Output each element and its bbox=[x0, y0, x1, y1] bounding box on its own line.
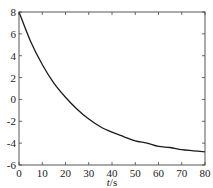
y-tick-label: 2 bbox=[11, 72, 17, 84]
x-tick-label: 70 bbox=[176, 167, 188, 179]
y-tick-label: 6 bbox=[11, 28, 17, 40]
y-tick-label: -2 bbox=[7, 115, 16, 127]
y-tick-label: 8 bbox=[11, 6, 17, 18]
y-tick-label: 4 bbox=[11, 50, 17, 62]
x-tick-label: 20 bbox=[60, 167, 72, 179]
axis-ticks bbox=[19, 12, 205, 165]
y-tick-labels: -6-4-202468 bbox=[7, 6, 17, 171]
x-tick-label: 50 bbox=[130, 167, 142, 179]
y-tick-label: 0 bbox=[11, 93, 17, 105]
line-chart: 01020304050607080 -6-4-202468 t/s bbox=[0, 0, 213, 188]
y-tick-label: -6 bbox=[7, 159, 17, 171]
x-tick-label: 80 bbox=[200, 167, 212, 179]
plot-frame bbox=[19, 12, 205, 165]
x-tick-label: 60 bbox=[153, 167, 165, 179]
x-axis-label: t/s bbox=[107, 176, 117, 188]
x-axis-label-unit: /s bbox=[110, 176, 117, 188]
data-curve bbox=[19, 12, 205, 152]
x-tick-label: 0 bbox=[16, 167, 22, 179]
y-tick-label: -4 bbox=[7, 137, 17, 149]
x-tick-label: 30 bbox=[83, 167, 95, 179]
x-tick-label: 10 bbox=[37, 167, 49, 179]
